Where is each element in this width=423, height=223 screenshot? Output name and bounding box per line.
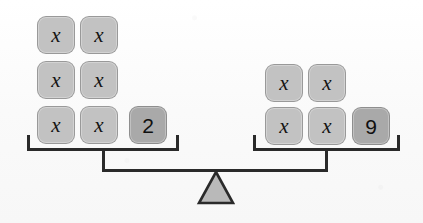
right-pan-tile-variable[interactable]: x [308, 64, 346, 102]
left-pan-tile-variable[interactable]: x [80, 61, 118, 99]
left-pan-tile-variable[interactable]: x [80, 16, 118, 54]
balance-scale-diagram: x x x x x x 2 x x x x 9 [0, 0, 423, 223]
left-pan-tile-variable[interactable]: x [37, 16, 75, 54]
triangle-icon [196, 170, 236, 206]
right-pan-tile-variable[interactable]: x [265, 64, 303, 102]
fulcrum-triangle [196, 170, 236, 206]
left-pan-tile-variable[interactable]: x [37, 61, 75, 99]
left-pan-bracket [27, 135, 179, 151]
right-pan-bracket [253, 135, 400, 151]
